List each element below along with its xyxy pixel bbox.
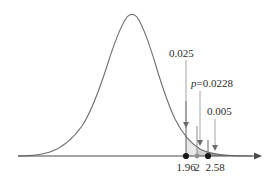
p-value-equation: =0.0228 xyxy=(197,77,233,89)
leader-arrow-alpha-025 xyxy=(183,122,189,128)
normal-distribution-figure: 0.025 p=0.0228 0.005 1.96 2 2.58 xyxy=(0,0,271,184)
annotation-alpha-005: 0.005 xyxy=(207,105,232,117)
x-axis-arrowhead xyxy=(254,152,262,159)
leader-arrow-p-value xyxy=(197,140,203,146)
axis-dot-2 xyxy=(195,154,200,159)
leader-arrow-alpha-005 xyxy=(212,145,218,151)
annotation-alpha-025: 0.025 xyxy=(169,47,194,59)
axis-dot-258 xyxy=(205,153,211,159)
axis-dot-196 xyxy=(183,153,189,159)
annotation-p-value: p=0.0228 xyxy=(191,77,233,89)
tick-label-258: 2.58 xyxy=(201,161,229,173)
distribution-plot xyxy=(0,0,271,184)
